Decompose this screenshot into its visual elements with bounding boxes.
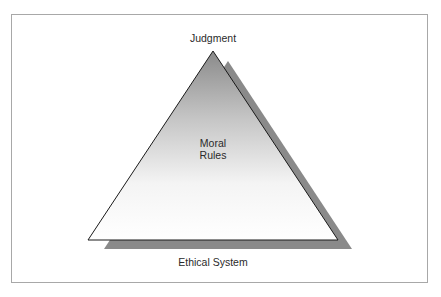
center-label-line1: Moral <box>183 137 243 149</box>
center-label: Moral Rules <box>183 137 243 161</box>
center-label-line2: Rules <box>183 149 243 161</box>
apex-label: Judgment <box>183 32 243 44</box>
base-label: Ethical System <box>160 256 266 268</box>
